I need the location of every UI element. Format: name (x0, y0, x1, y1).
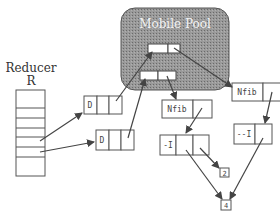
value-node-4: 4 (221, 200, 231, 210)
decrement-node-1: -I (160, 135, 209, 155)
svg-text:-I: -I (163, 141, 173, 150)
reducer: Reducer R (5, 61, 56, 176)
diagram-canvas: Mobile Pool Reducer R D (0, 0, 280, 215)
d-node-1: D (84, 96, 122, 114)
arrow-dec2-to-4 (230, 138, 263, 199)
arrow-reducer-to-d2 (40, 142, 94, 152)
value-node-2: 2 (220, 168, 229, 178)
reducer-title: Reducer (5, 61, 56, 75)
nfib-node-2: Nfib (232, 83, 280, 101)
d-node-2: D (96, 130, 134, 150)
svg-text:D: D (88, 101, 93, 110)
svg-text:Nfib: Nfib (237, 88, 256, 97)
svg-text:--I: --I (237, 130, 252, 139)
svg-text:4: 4 (224, 202, 228, 210)
svg-text:Nfib: Nfib (167, 105, 186, 114)
arrow-dec1-to-4 (186, 150, 222, 199)
arrow-reducer-to-d1 (40, 113, 82, 141)
svg-text:D: D (100, 136, 105, 145)
reducer-name: R (26, 74, 36, 88)
nfib-node-1: Nfib (162, 100, 212, 118)
svg-text:2: 2 (222, 170, 226, 178)
pool-title: Mobile Pool (139, 17, 211, 31)
pool-cell-bottom (140, 71, 176, 80)
decrement-node-2: --I (234, 124, 272, 144)
